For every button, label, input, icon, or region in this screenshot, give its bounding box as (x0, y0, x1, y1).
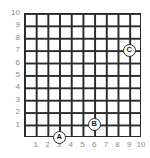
y-tick-label: 4 (16, 83, 20, 91)
x-tick-label: 1 (33, 141, 37, 149)
y-tick-label: 3 (16, 96, 20, 104)
grid-lines (24, 13, 141, 137)
y-tick-label: 2 (16, 108, 20, 116)
x-tick-label: 10 (137, 141, 146, 149)
x-tick-label: 6 (92, 141, 96, 149)
y-tick-label: 10 (11, 9, 20, 17)
plot-area (24, 13, 141, 137)
point-marker-c[interactable]: C (123, 44, 136, 57)
x-tick-label: 9 (127, 141, 131, 149)
x-tick-label: 4 (69, 141, 73, 149)
y-tick-label: 1 (16, 121, 20, 129)
x-tick-label: 8 (115, 141, 119, 149)
y-tick-label: 7 (16, 46, 20, 54)
coordinate-grid-figure: 12345678910 12345678910 ABC (0, 0, 150, 158)
point-marker-b[interactable]: B (88, 118, 101, 131)
y-tick-label: 8 (16, 34, 20, 42)
y-tick-label: 9 (16, 21, 20, 29)
y-tick-label: 6 (16, 59, 20, 67)
x-tick-label: 7 (104, 141, 108, 149)
x-tick-label: 5 (80, 141, 84, 149)
y-tick-label: 5 (16, 71, 20, 79)
point-marker-a[interactable]: A (53, 131, 66, 144)
x-tick-label: 2 (45, 141, 49, 149)
